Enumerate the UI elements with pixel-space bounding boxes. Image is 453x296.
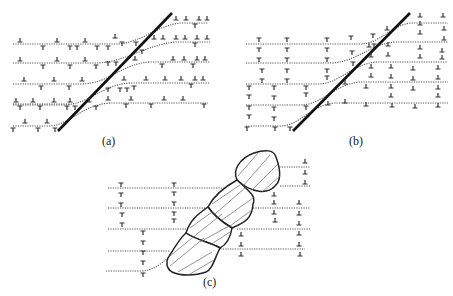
panel-c: (c) (106, 151, 310, 289)
panel-label-c: (c) (203, 275, 216, 289)
panel-label-b: (b) (349, 134, 363, 148)
dislocations-a (11, 16, 210, 132)
fault-line-a (58, 13, 172, 131)
panel-a: (a) (11, 13, 211, 148)
dislocation-diagram: (a) (b) (0, 0, 453, 296)
panel-label-a: (a) (102, 134, 115, 148)
dislocations-b (245, 13, 447, 131)
panel-b: (b) (245, 13, 449, 148)
fault-line-b (293, 13, 410, 131)
grains (167, 151, 280, 275)
